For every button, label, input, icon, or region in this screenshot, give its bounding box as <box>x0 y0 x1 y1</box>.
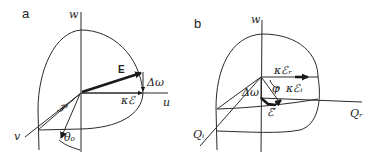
bloch-diagram-figure: a w u v θ₀ κℰ E Δω 𝒫⃗ b <box>0 0 382 157</box>
w-axis-label: w <box>69 8 79 21</box>
e-field-b-arrowhead <box>276 100 281 104</box>
panel-a: a w u v θ₀ κℰ E Δω 𝒫⃗ <box>14 6 170 152</box>
e-field-vector <box>82 73 141 92</box>
v-axis-label: v <box>14 130 21 143</box>
theta-label: θ₀ <box>64 131 76 144</box>
panel-b: b w Qᵣ Qᵢ κℰᵣ φ κℰᵢ Δω ℰ⃗ <box>193 13 363 152</box>
delta-omega-b-label: Δω <box>241 86 259 99</box>
e-field-label: E <box>118 64 125 75</box>
e-field-b-vector <box>261 98 276 105</box>
qi-axis-label: Qᵢ <box>193 128 204 141</box>
panel-a-label: a <box>22 6 30 21</box>
panel-b-label: b <box>194 16 201 31</box>
e-field-b-label: ℰ⃗ <box>267 106 276 119</box>
kappa-er-label: κℰᵣ <box>273 64 292 77</box>
w-axis-b-label: w <box>251 13 261 26</box>
u-axis-label: u <box>163 96 170 109</box>
delta-omega-label: Δω <box>146 76 164 89</box>
kappa-ei-label: κℰᵢ <box>285 82 302 95</box>
qr-axis-label: Qᵣ <box>350 107 363 120</box>
kappa-e-label: κℰ <box>120 94 136 107</box>
